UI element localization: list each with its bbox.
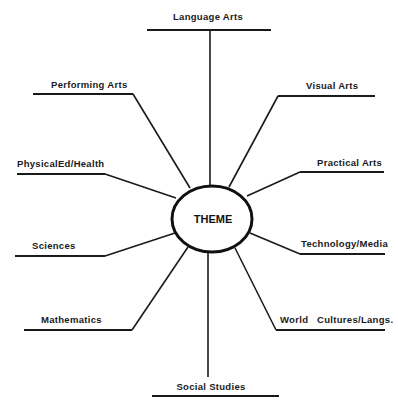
spoke-label: Mathematics	[41, 314, 102, 325]
spoke-label: World Cultures/Langs.	[280, 314, 393, 325]
spoke-visual-arts: Visual Arts	[229, 80, 375, 187]
spoke-label: Performing Arts	[51, 79, 127, 90]
spoke-practical-arts: Practical Arts	[247, 157, 384, 196]
spoke-label: Language Arts	[173, 11, 243, 22]
connector-line	[235, 248, 276, 330]
connector-line	[133, 94, 190, 188]
spoke-social-studies: Social Studies	[152, 252, 279, 396]
connector-line	[229, 96, 278, 187]
spoke-label: Social Studies	[176, 381, 245, 392]
connector-line	[250, 233, 300, 254]
theme-label: THEME	[194, 213, 233, 225]
spoke-physical-ed-health: PhysicalEd/Health	[17, 158, 176, 198]
spoke-world-cultures: World Cultures/Langs.	[235, 248, 393, 330]
connector-line	[247, 172, 300, 196]
spoke-label: Visual Arts	[306, 80, 358, 91]
connector-line	[105, 233, 175, 256]
spoke-mathematics: Mathematics	[24, 247, 188, 330]
spoke-label: PhysicalEd/Health	[17, 158, 104, 169]
spoke-language-arts: Language Arts	[147, 11, 271, 186]
spoke-technology-media: Technology/Media	[250, 233, 388, 254]
spoke-label: Practical Arts	[317, 157, 382, 168]
spoke-sciences: Sciences	[15, 233, 175, 256]
spoke-label: Technology/Media	[301, 238, 388, 249]
connector-line	[132, 247, 188, 330]
spoke-label: Sciences	[32, 240, 76, 251]
connector-line	[105, 174, 176, 198]
theme-web-diagram: Language Arts Visual Arts Practical Arts…	[0, 0, 398, 407]
spoke-performing-arts: Performing Arts	[33, 79, 190, 188]
center-theme-node: THEME	[172, 186, 252, 252]
